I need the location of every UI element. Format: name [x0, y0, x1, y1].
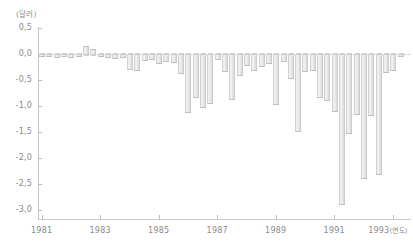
y-axis-unit-label: (달러) — [16, 8, 37, 19]
bar-cap — [347, 53, 352, 55]
bar-cap — [106, 53, 111, 55]
bar-cap — [47, 53, 52, 55]
bar — [207, 54, 213, 104]
bar-cap — [289, 53, 294, 55]
bar-cap — [318, 53, 323, 55]
bar — [222, 54, 228, 72]
bar-cap — [355, 53, 360, 55]
bar — [281, 54, 287, 62]
bar-cap — [230, 53, 235, 55]
bar — [288, 54, 294, 79]
bar-cap — [369, 53, 374, 55]
bar-cap — [216, 53, 221, 55]
bar — [302, 54, 308, 72]
y-tick-label: -1,0 — [0, 102, 32, 110]
bar-cap — [303, 53, 308, 55]
bar-cap — [91, 54, 96, 56]
bar — [251, 54, 257, 71]
y-tick-label: -3,0 — [0, 206, 32, 214]
bar — [398, 54, 404, 57]
bar — [237, 54, 243, 76]
bar — [39, 54, 45, 57]
bar-cap — [77, 53, 82, 55]
bar — [68, 54, 74, 58]
bar-cap — [384, 53, 389, 55]
bar — [98, 54, 104, 57]
bar-cap — [179, 53, 184, 55]
bar — [244, 54, 250, 66]
bar-cap — [274, 53, 279, 55]
bar-cap — [62, 53, 67, 55]
bar-cap — [296, 53, 301, 55]
bar — [120, 54, 126, 58]
bar-cap — [252, 53, 257, 55]
bar-cap — [325, 53, 330, 55]
plot-area — [38, 28, 410, 217]
bar — [105, 54, 111, 58]
y-tick-label: -2,5 — [0, 180, 32, 188]
y-tick-label: 0,0 — [0, 50, 32, 58]
bar-cap — [201, 53, 206, 55]
x-axis-unit-label: (연도) — [389, 227, 407, 235]
bar-cap — [194, 53, 199, 55]
bar-cap — [391, 53, 396, 55]
bar — [332, 54, 338, 112]
bar — [127, 54, 133, 70]
bar — [273, 54, 279, 105]
bar-cap — [113, 53, 118, 55]
bar — [310, 54, 316, 71]
bar — [134, 54, 140, 71]
bar-cap — [157, 53, 162, 55]
bar-cap — [128, 53, 133, 55]
bar — [142, 54, 148, 61]
bar — [112, 54, 118, 59]
bar-cap — [208, 53, 213, 55]
bar — [346, 54, 352, 134]
bar — [61, 54, 67, 57]
bar — [390, 54, 396, 71]
bar — [361, 54, 367, 179]
bar — [324, 54, 330, 101]
bar — [83, 46, 89, 55]
bar — [266, 54, 272, 64]
bar — [339, 54, 345, 205]
bar-cap — [172, 53, 177, 55]
y-tick-label: 0,5 — [0, 24, 32, 32]
bar-cap — [340, 53, 345, 55]
bar — [317, 54, 323, 98]
bar — [259, 54, 265, 67]
bar-cap — [245, 53, 250, 55]
y-tick-label: -2,0 — [0, 154, 32, 162]
bar — [171, 54, 177, 63]
bar-cap — [143, 53, 148, 55]
bar-cap — [84, 54, 89, 56]
bar — [383, 54, 389, 73]
bar-cap — [238, 53, 243, 55]
x-axis-line — [38, 219, 411, 220]
bar-cap — [399, 53, 404, 55]
x-tick-label: 1987 — [207, 226, 228, 235]
bar-cap — [311, 53, 316, 55]
x-tick-label: 1985 — [148, 226, 169, 235]
bar-cap — [186, 53, 191, 55]
bar — [90, 49, 96, 55]
bar-cap — [377, 53, 382, 55]
bar-cap — [223, 53, 228, 55]
bar-cap — [282, 53, 287, 55]
bar — [156, 54, 162, 64]
y-tick-label: -1,5 — [0, 128, 32, 136]
x-tick-label: 1981 — [31, 226, 52, 235]
bar-cap — [150, 53, 155, 55]
bar — [200, 54, 206, 108]
bar — [149, 54, 155, 60]
bar — [368, 54, 374, 116]
bar-cap — [362, 53, 367, 55]
bar-cap — [333, 53, 338, 55]
bar — [376, 54, 382, 175]
bar-cap — [135, 53, 140, 55]
bar-cap — [40, 53, 45, 55]
bar-cap — [267, 53, 272, 55]
x-tick-label: 1983 — [90, 226, 111, 235]
bar-cap — [121, 53, 126, 55]
bar — [215, 54, 221, 60]
